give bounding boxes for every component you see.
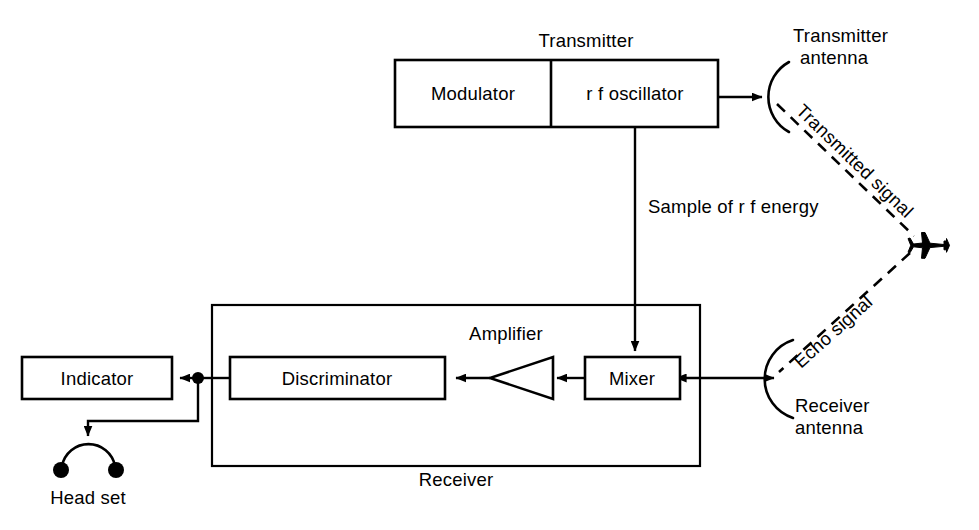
head-set-earpiece-right-icon [108,462,124,478]
block-label-indicator: Indicator [61,368,134,389]
receiver-antenna-label-line2: antenna [795,417,864,438]
block-label-mixer: Mixer [609,368,655,389]
aircraft-target-icon [908,233,950,259]
head-set-band-icon [62,444,115,466]
transmitter-antenna-label-line1: Transmitter [793,25,888,46]
amplifier-label: Amplifier [469,323,543,344]
amplifier-triangle-icon [490,357,553,399]
radar-block-diagram: Transmitter Modulator r f oscillator Tra… [0,0,979,530]
diagram-canvas: Transmitter Modulator r f oscillator Tra… [0,0,979,530]
block-label-rf-oscillator: r f oscillator [586,83,683,104]
transmitter-title: Transmitter [538,30,633,51]
receiver-antenna-label-line1: Receiver [795,395,870,416]
transmitter-antenna-label-line2: antenna [800,47,869,68]
transmitter-antenna-icon [768,62,789,132]
receiver-label: Receiver [419,469,494,490]
echo-signal-label: Echo signal [790,291,877,372]
block-label-discriminator: Discriminator [282,368,393,389]
sample-of-rf-energy-label: Sample of r f energy [648,196,819,217]
head-set-earpiece-left-icon [53,462,69,478]
head-set-label: Head set [50,487,126,508]
block-label-modulator: Modulator [431,83,515,104]
